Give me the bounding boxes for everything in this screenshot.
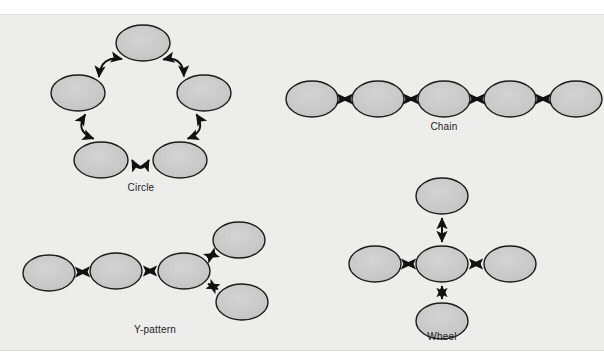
edge-circle-c4-c2 xyxy=(81,114,93,138)
node-y-pattern-y4 xyxy=(213,222,265,258)
node-y-pattern-y2 xyxy=(90,253,142,289)
diagram-panel: Circle Chain Y-pattern Wheel xyxy=(0,14,604,351)
pattern-label-wheel: Wheel xyxy=(397,331,487,342)
pattern-label-circle: Circle xyxy=(96,182,186,193)
edge-circle-c1-c3 xyxy=(163,59,184,77)
node-y-pattern-y5 xyxy=(216,284,268,320)
edge-circle-c3-c5 xyxy=(188,114,201,138)
node-y-pattern-y3 xyxy=(158,253,210,289)
node-wheel-w_top xyxy=(416,178,468,214)
node-circle-c2 xyxy=(51,75,105,111)
node-circle-c3 xyxy=(177,75,231,111)
node-chain-h4 xyxy=(484,81,536,117)
node-chain-h2 xyxy=(352,81,404,117)
node-y-pattern-y1 xyxy=(23,255,75,291)
node-circle-c4 xyxy=(74,142,128,178)
node-wheel-w_left xyxy=(349,246,401,282)
node-wheel-w_right xyxy=(484,246,536,282)
node-chain-h1 xyxy=(286,81,338,117)
edge-circle-c5-c4 xyxy=(132,160,149,168)
pattern-label-y-pattern: Y-pattern xyxy=(110,324,200,335)
network-patterns-svg xyxy=(0,15,604,351)
node-circle-c5 xyxy=(153,142,207,178)
caption-remnant xyxy=(0,0,604,12)
edge-y-pattern-y3-y5 xyxy=(208,284,218,289)
edge-circle-c2-c1 xyxy=(99,58,122,77)
pattern-label-chain: Chain xyxy=(399,121,489,132)
node-circle-c1 xyxy=(116,25,170,61)
figure-root: Circle Chain Y-pattern Wheel xyxy=(0,0,604,355)
node-chain-h3 xyxy=(418,81,470,117)
edge-y-pattern-y3-y4 xyxy=(208,253,216,257)
node-wheel-w_hub xyxy=(416,246,468,282)
node-chain-h5 xyxy=(550,81,602,117)
